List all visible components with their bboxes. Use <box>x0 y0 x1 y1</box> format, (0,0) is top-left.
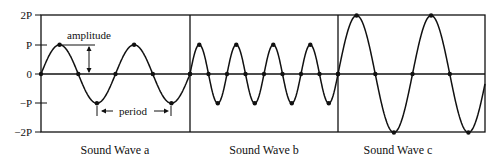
wave-point <box>253 101 257 105</box>
wave-point <box>39 72 43 76</box>
wave-point <box>197 43 201 47</box>
wave-point <box>448 72 452 76</box>
arrow-left-icon <box>101 109 106 114</box>
wave-point <box>225 72 229 76</box>
sound-waves-diagram: 2P P 0 −P −2P amplitude period Sound Wav… <box>0 0 497 163</box>
wave-point <box>188 72 192 76</box>
wave-point <box>373 72 377 76</box>
wave-point <box>280 72 284 76</box>
wave-point <box>299 72 303 76</box>
y-tick-0: 0 <box>27 68 33 80</box>
y-tick-neg-2p: −2P <box>14 126 32 138</box>
wave-point <box>317 72 321 76</box>
wave-point <box>206 72 210 76</box>
wave-point <box>262 72 266 76</box>
wave-point <box>234 43 238 47</box>
period-label: period <box>119 105 148 117</box>
y-tick-2p: 2P <box>20 9 32 21</box>
y-tick-p: P <box>26 39 32 51</box>
wave-point <box>76 72 80 76</box>
wave-point <box>429 13 433 17</box>
wave-point <box>243 72 247 76</box>
wave-point <box>392 130 396 134</box>
amplitude-label: amplitude <box>67 29 111 41</box>
wave-point <box>327 101 331 105</box>
arrow-right-icon <box>164 109 169 114</box>
wave-point <box>466 130 470 134</box>
caption-wave-a: Sound Wave a <box>81 143 150 157</box>
wave-point <box>95 101 99 105</box>
caption-wave-b: Sound Wave b <box>229 143 298 157</box>
wave-point <box>169 101 173 105</box>
wave-point <box>336 72 340 76</box>
wave-point <box>113 72 117 76</box>
wave-point <box>132 43 136 47</box>
arrow-up-icon <box>87 46 92 51</box>
wave-point <box>271 43 275 47</box>
wave-point <box>410 72 414 76</box>
y-tick-neg-p: −P <box>20 97 32 109</box>
wave-point <box>354 13 358 17</box>
wave-point <box>308 43 312 47</box>
caption-wave-c: Sound Wave c <box>364 143 433 157</box>
wave-point <box>151 72 155 76</box>
arrow-down-icon <box>87 68 92 73</box>
wave-point <box>216 101 220 105</box>
wave-point <box>290 101 294 105</box>
